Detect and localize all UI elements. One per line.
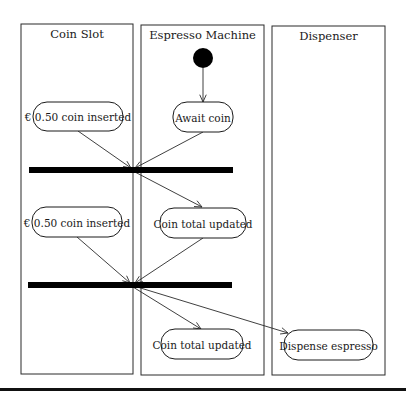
swimlane-border	[272, 26, 385, 375]
action-node-label: € 0.50 coin inserted	[23, 217, 131, 229]
control-flow-arrow	[133, 287, 201, 329]
control-flow-arrow	[133, 171, 202, 207]
action-node-coin-total-updated-2: Coin total updated	[152, 329, 251, 359]
action-node-dispense-espresso: Dispense espresso	[279, 330, 377, 360]
flow-line	[133, 287, 201, 329]
swimlane-dispenser: Dispenser	[272, 26, 385, 375]
activity-diagram: Coin SlotEspresso MachineDispenser € 0.5…	[0, 0, 406, 396]
action-node-label: € 0.50 coin inserted	[24, 111, 132, 123]
flow-line	[133, 171, 202, 207]
swimlane-title: Dispenser	[299, 29, 358, 43]
control-flow-arrow	[200, 68, 207, 102]
action-node-label: Coin total updated	[153, 218, 252, 230]
swimlane-border	[141, 25, 264, 375]
action-node-label: Await coin	[174, 112, 231, 124]
swimlane-title: Coin Slot	[50, 27, 104, 41]
swimlane-border	[21, 24, 133, 374]
bottom-rule-group	[0, 388, 406, 391]
control-flow-arrow	[78, 131, 131, 168]
control-flow-arrow	[77, 237, 130, 283]
flow-line	[135, 132, 203, 168]
action-node-label: Coin total updated	[152, 339, 251, 351]
initial-node-group	[193, 48, 213, 68]
swimlane-coin-slot: Coin Slot	[21, 24, 133, 374]
control-flow-arrow	[135, 238, 203, 283]
action-node-coin-total-updated-1: Coin total updated	[153, 208, 252, 238]
action-nodes: € 0.50 coin insertedAwait coin€ 0.50 coi…	[23, 102, 378, 360]
action-node-coin-inserted-1: € 0.50 coin inserted	[24, 102, 132, 131]
action-node-await-coin: Await coin	[173, 102, 233, 132]
fork-join-bar	[29, 167, 233, 173]
action-node-coin-inserted-2: € 0.50 coin inserted	[23, 207, 131, 237]
control-flow-arrow	[135, 132, 203, 168]
flow-line	[135, 238, 203, 283]
swimlane-espresso-machine: Espresso Machine	[141, 25, 264, 375]
fork-join-bar	[28, 282, 232, 288]
flow-line	[77, 237, 130, 283]
bottom-divider	[0, 388, 406, 391]
control-flow-arrow	[134, 286, 288, 334]
arrowhead-icon	[193, 322, 201, 329]
initial-node	[193, 48, 213, 68]
action-node-label: Dispense espresso	[279, 340, 377, 352]
flow-line	[134, 286, 288, 333]
swimlane-title: Espresso Machine	[149, 28, 256, 42]
flow-line	[78, 131, 131, 168]
